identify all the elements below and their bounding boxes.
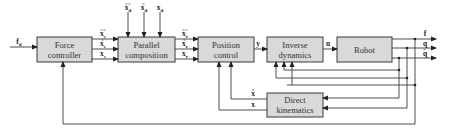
parallel-composition-label-1: Parallel [133, 40, 160, 50]
direct-kinematics-block: Direct kinematics [267, 93, 323, 117]
xc-signals: xc xc xc [92, 29, 118, 59]
position-control-label-2: control [214, 50, 239, 60]
inverse-dynamics-block: Inverse dynamics [267, 37, 323, 62]
svg-text:x: x [251, 89, 255, 98]
svg-text:xd: xd [125, 3, 132, 13]
u-signal: u [323, 39, 337, 49]
control-block-diagram: Force controller Parallel composition Po… [0, 0, 452, 131]
inverse-dynamics-label-1: Inverse [282, 40, 307, 50]
svg-text:q: q [423, 39, 428, 48]
svg-text:xc: xc [100, 49, 107, 59]
svg-text:xr: xr [182, 39, 189, 49]
svg-text:xr: xr [182, 29, 189, 39]
robot-block: Robot [337, 37, 392, 62]
xr-signals: xr xr xr [175, 29, 198, 59]
xd-signals: xd xd xd [125, 3, 164, 37]
robot-outputs: f q q [392, 29, 436, 58]
svg-text:xc: xc [100, 29, 107, 39]
force-controller-label-1: Force [55, 40, 75, 50]
svg-text:xr: xr [182, 49, 189, 59]
svg-text:xd: xd [157, 3, 164, 13]
svg-text:x: x [251, 100, 255, 109]
force-controller-label-2: controller [48, 50, 82, 60]
inverse-dynamics-label-2: dynamics [279, 50, 313, 60]
y-signal: y [254, 39, 267, 49]
svg-text:u: u [326, 39, 330, 48]
robot-label: Robot [354, 45, 376, 55]
direct-kinematics-label-1: Direct [284, 95, 306, 105]
position-control-block: Position control [198, 37, 254, 62]
direct-kinematics-label-2: kinematics [276, 105, 314, 115]
position-control-label-1: Position [212, 40, 241, 50]
svg-text:fd: fd [16, 37, 22, 47]
parallel-composition-block: Parallel composition [118, 37, 175, 62]
parallel-composition-label-2: composition [125, 50, 168, 60]
svg-text:xd: xd [141, 3, 148, 13]
svg-text:xc: xc [100, 39, 107, 49]
svg-text:y: y [256, 39, 260, 48]
svg-text:q: q [423, 49, 428, 58]
force-controller-block: Force controller [37, 37, 92, 62]
fd-input-signal: fd [10, 37, 37, 47]
svg-text:f: f [424, 29, 427, 38]
